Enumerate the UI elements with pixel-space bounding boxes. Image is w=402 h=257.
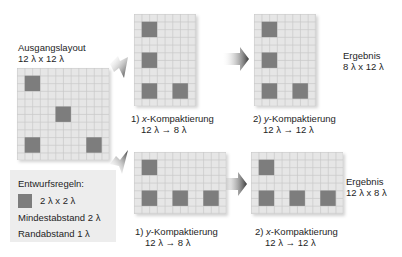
design-rule-block-size: 2 λ x 2 λ (18, 194, 75, 208)
top-step1-label: -Kompaktierung (147, 113, 214, 124)
layout-block (86, 137, 101, 152)
original-layout-label: Ausgangslayout 12 λ x 12 λ (18, 42, 86, 64)
layout-block (203, 191, 218, 206)
bottom-result-size: 12 λ x 8 λ (346, 187, 387, 198)
design-rules-title: Entwurfsregeln: (18, 178, 84, 189)
bottom-step1-grid (134, 152, 226, 214)
layout-block (290, 191, 305, 206)
bottom-step2-caption: 2) x-Kompaktierung 12 λ → 12 λ (255, 226, 338, 248)
original-layout-title: Ausgangslayout (18, 42, 86, 53)
layout-block (142, 53, 157, 68)
bottom-step1-number: 1) (135, 226, 143, 237)
layout-block (173, 191, 188, 206)
layout-block (25, 137, 40, 152)
layout-block (142, 191, 157, 206)
design-rules-box: Entwurfsregeln: 2 λ x 2 λ Mindestabstand… (10, 170, 116, 242)
bottom-result: Ergebnis 12 λ x 8 λ (346, 176, 387, 198)
top-step1-change: 12 λ → 8 λ (131, 124, 214, 135)
design-rule-min-spacing: Mindestabstand 2 λ (18, 212, 100, 223)
original-layout-size: 12 λ x 12 λ (18, 53, 86, 64)
block-size-text: 2 λ x 2 λ (40, 195, 75, 206)
grid-canvas (254, 14, 316, 106)
layout-block (293, 83, 308, 98)
layout-block (259, 160, 274, 175)
bottom-step1-change: 12 λ → 8 λ (135, 237, 218, 248)
layout-block (173, 83, 188, 98)
layout-block (56, 107, 71, 122)
arrow-to-top-step2-icon (222, 47, 250, 71)
grid-canvas (134, 152, 226, 214)
top-step1-caption: 1) x-Kompaktierung 12 λ → 8 λ (131, 113, 214, 135)
block-swatch (18, 194, 32, 208)
bottom-step2-number: 2) (255, 226, 263, 237)
grid-canvas (251, 152, 343, 214)
layout-block (262, 83, 277, 98)
layout-block (262, 22, 277, 37)
arrow-to-top-step1-icon (108, 52, 134, 84)
layout-block (262, 53, 277, 68)
top-result-title: Ergebnis (343, 50, 384, 61)
top-result: Ergebnis 8 λ x 12 λ (343, 50, 384, 72)
bottom-step2-grid (251, 152, 343, 214)
design-rule-border-spacing: Randabstand 1 λ (18, 228, 90, 239)
top-step2-change: 12 λ → 12 λ (253, 124, 336, 135)
bottom-step1-caption: 1) y-Kompaktierung 12 λ → 8 λ (135, 226, 218, 248)
top-step2-number: 2) (253, 113, 261, 124)
grid-canvas (134, 14, 196, 106)
original-layout-grid (17, 68, 109, 160)
layout-block (142, 83, 157, 98)
bottom-step2-change: 12 λ → 12 λ (255, 237, 338, 248)
bottom-result-title: Ergebnis (346, 176, 387, 187)
top-result-size: 8 λ x 12 λ (343, 61, 384, 72)
top-step1-number: 1) (131, 113, 139, 124)
top-step1-grid (134, 14, 196, 106)
layout-block (320, 191, 335, 206)
bottom-step1-label: -Kompaktierung (151, 226, 218, 237)
top-step2-grid (254, 14, 316, 106)
grid-canvas (17, 68, 109, 160)
layout-block (142, 22, 157, 37)
arrow-to-bottom-step1-icon (108, 146, 134, 178)
layout-block (259, 191, 274, 206)
bottom-step2-label: -Kompaktierung (271, 226, 338, 237)
layout-block (25, 76, 40, 91)
top-step2-caption: 2) y-Kompaktierung 12 λ → 12 λ (253, 113, 336, 135)
top-step2-label: -Kompaktierung (269, 113, 336, 124)
layout-block (142, 160, 157, 175)
